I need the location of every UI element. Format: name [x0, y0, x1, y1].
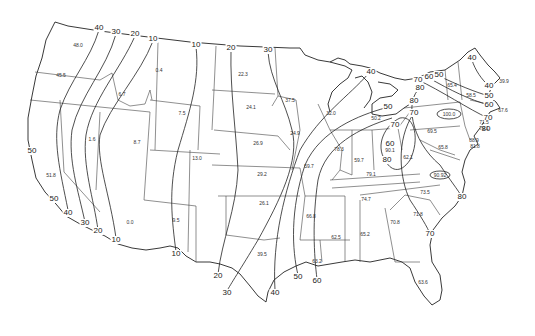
station-value-ne: 26.9 [253, 140, 263, 146]
isoline-label-iso-ne-50: 50 [484, 92, 495, 100]
isoline-label-iso-ny-70: 70 [409, 109, 420, 117]
isolines [57, 30, 489, 291]
station-value-oh: 90.1 [385, 147, 395, 153]
isoline-label-iso-sw-30: 30 [80, 219, 91, 227]
station-value-ar: 66.8 [306, 213, 316, 219]
station-value-nc: 73.5 [420, 189, 430, 195]
isoline-label-iso-n-30: 30 [263, 46, 274, 54]
isoline-label-iso-ne-60: 60 [484, 101, 495, 109]
isoline-label-iso-tx-10: 10 [171, 250, 182, 258]
isoline-label-iso-pa-50: 50 [434, 71, 445, 79]
isoline-60-gulf [314, 118, 392, 279]
isoline-label-iso-nw-30: 30 [111, 28, 122, 36]
station-value-id-s: 6.7 [119, 91, 126, 97]
isoline-label-iso-oh-70: 70 [390, 121, 401, 129]
station-value-az: 0.0 [127, 219, 134, 225]
station-value-ca: 51.8 [46, 172, 56, 178]
station-value-nd: 22.3 [238, 71, 248, 77]
isoline-label-iso-nw-10: 10 [148, 35, 159, 43]
station-value-wy: 7.5 [179, 110, 186, 116]
station-value-ky: 79.1 [366, 171, 376, 177]
station-value-ok: 26.1 [259, 200, 269, 206]
isoline-label-iso-ca-40: 40 [63, 209, 74, 217]
station-value-nj: 88.9 [469, 137, 479, 143]
station-value-nm: 9.5 [173, 217, 180, 223]
station-value-va: 90.92 [434, 172, 447, 178]
station-value-nv: 1.6 [89, 136, 96, 142]
station-value-ks: 29.2 [257, 171, 267, 177]
isoline-40-west [57, 30, 99, 210]
isoline-label-iso-mi-40: 40 [366, 68, 377, 76]
isoline-label-iso-oh-80: 80 [382, 156, 393, 164]
isoline-50-gulf [294, 108, 385, 275]
station-value-or: 45.5 [56, 72, 66, 78]
station-value-co: 13.0 [192, 155, 202, 161]
isoline-label-iso-ne-40b: 40 [484, 82, 495, 90]
station-value-ut: 8.7 [134, 139, 141, 145]
station-value-nh: 58.5 [466, 92, 476, 98]
station-value-wi: 32.0 [326, 110, 336, 116]
station-value-mn: 37.5 [285, 97, 295, 103]
isoline-label-iso-nw-20: 20 [130, 30, 141, 38]
station-value-nyc: 79.1 [479, 125, 489, 131]
station-value-ms: 62.5 [331, 234, 341, 240]
isoline-20-central [218, 50, 238, 274]
isoline-label-iso-sw-10: 10 [111, 236, 122, 244]
isoline-20-west [85, 36, 135, 230]
station-value-tx: 39.5 [257, 251, 267, 257]
station-value-wa: 48.0 [73, 42, 83, 48]
isoline-label-iso-ne-40a: 40 [467, 54, 478, 62]
isoline-label-iso-sw-20: 20 [93, 227, 104, 235]
station-value-wv: 62.1 [403, 154, 413, 160]
station-value-mo: 59.7 [304, 163, 314, 169]
station-value-me: 39.9 [499, 78, 509, 84]
station-value-vt: 65.4 [447, 82, 457, 88]
station-value-il: 78.3 [334, 146, 344, 152]
isoline-label-iso-nc-80: 80 [457, 193, 468, 201]
isoline-label-iso-ca-50b: 50 [49, 195, 60, 203]
station-value-mt: 0.4 [156, 67, 163, 73]
isoline-label-iso-gulf-50: 50 [293, 273, 304, 281]
station-value-md: 65.8 [438, 144, 448, 150]
isoline-label-iso-mi-50: 50 [383, 103, 394, 111]
station-value-mi: 50.2 [371, 115, 381, 121]
station-value-al: 65.2 [360, 231, 370, 237]
isoline-label-iso-gulf-60: 60 [312, 277, 323, 285]
isoline-label-iso-tx-20: 20 [213, 272, 224, 280]
isoline-30-west [71, 34, 116, 222]
station-value-in: 59.7 [354, 157, 364, 163]
station-value-sd: 24.1 [246, 104, 256, 110]
station-value-sc: 71.8 [413, 211, 423, 217]
isoline-10-west [99, 41, 153, 238]
isoline-label-iso-n-10: 10 [191, 41, 202, 49]
isoline-label-iso-ca-50a: 50 [27, 147, 38, 155]
isoline-60-northeast [429, 78, 489, 105]
isoline-label-iso-sc-70: 70 [425, 230, 436, 238]
station-value-ga: 70.8 [390, 219, 400, 225]
station-value-la: 63.2 [312, 258, 322, 264]
station-value-de: 81.8 [470, 143, 480, 149]
station-value-tn: 74.7 [361, 196, 371, 202]
isoline-label-iso-ny-80: 80 [415, 84, 426, 92]
station-value-ri: 67.6 [498, 107, 508, 113]
isoline-label-iso-gulf-40: 40 [270, 289, 281, 297]
isoline-label-iso-tx-30: 30 [222, 289, 233, 297]
isoline-label-iso-nw-40: 40 [94, 24, 105, 32]
isoline-label-iso-ny-80b: 80 [409, 97, 420, 105]
isoline-label-iso-n-20: 20 [226, 44, 237, 52]
station-value-ia: 24.9 [290, 130, 300, 136]
station-value-pa: 69.5 [427, 128, 437, 134]
station-value-ny: 100.0 [443, 111, 456, 117]
us-outline [28, 22, 500, 305]
station-value-fl: 63.6 [418, 279, 428, 285]
